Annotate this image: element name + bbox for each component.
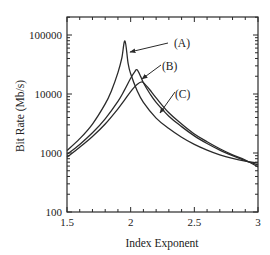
annotation-arrow	[160, 92, 175, 113]
annotation-arrow	[142, 65, 161, 79]
y-axis: 100100010000100000	[29, 17, 258, 218]
x-tick-label: 1.5	[60, 216, 74, 228]
plot-border	[67, 17, 258, 212]
plot-frame	[67, 17, 258, 212]
x-axis-title: Index Exponent	[125, 237, 199, 250]
annotation-label: (C)	[175, 88, 191, 101]
x-tick-label: 2.5	[187, 216, 201, 228]
curve-b	[67, 70, 258, 165]
bit-rate-chart: 1.522.53 100100010000100000 (A)(B)(C) In…	[0, 0, 270, 255]
y-tick-label: 100	[46, 206, 63, 218]
y-tick-label: 100000	[29, 29, 63, 41]
y-axis-title: Bit Rate (Mb/s)	[14, 80, 27, 152]
curve-annotations: (A)(B)(C)	[130, 37, 191, 113]
y-tick-label: 1000	[40, 147, 63, 159]
annotation-label: (A)	[174, 37, 190, 50]
x-tick-label: 3	[255, 216, 261, 228]
y-tick-label: 10000	[35, 88, 63, 100]
annotation-label: (B)	[162, 60, 178, 73]
annotation-arrow	[130, 43, 168, 52]
x-tick-label: 2	[128, 216, 134, 228]
